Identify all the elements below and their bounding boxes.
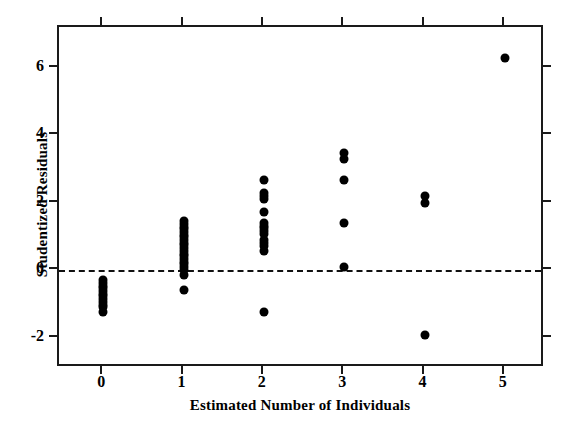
data-point [340, 218, 349, 227]
data-point [340, 262, 349, 271]
x-tick-label-5: 5 [499, 373, 507, 391]
data-point [259, 308, 268, 317]
x-tick-top-2 [261, 17, 263, 25]
data-point [420, 330, 429, 339]
x-tick-top-0 [100, 17, 102, 25]
x-tick-top-4 [422, 17, 424, 25]
y-tick-0 [49, 267, 57, 269]
x-tick-label-4: 4 [419, 373, 427, 391]
x-tick-top-1 [181, 17, 183, 25]
data-point [340, 155, 349, 164]
x-tick-label-0: 0 [97, 373, 105, 391]
y-tick-right--2 [543, 335, 551, 337]
y-tick-right-4 [543, 132, 551, 134]
y-tick-2 [49, 200, 57, 202]
data-point [179, 271, 188, 280]
x-tick-label-2: 2 [258, 373, 266, 391]
data-point [179, 286, 188, 295]
y-tick-6 [49, 65, 57, 67]
x-tick-label-1: 1 [178, 373, 186, 391]
y-tick-label-4: 4 [36, 124, 44, 142]
x-tick-label-3: 3 [338, 373, 346, 391]
data-point [420, 199, 429, 208]
y-tick-right-0 [543, 267, 551, 269]
data-point [340, 176, 349, 185]
zero-reference-line [59, 270, 541, 272]
plot-area [59, 27, 541, 364]
x-tick-top-3 [341, 17, 343, 25]
x-axis-title: Estimated Number of Individuals [57, 397, 543, 414]
data-point [259, 246, 268, 255]
y-tick-label-0: 0 [36, 259, 44, 277]
data-point [99, 307, 108, 316]
plot-frame [57, 25, 543, 366]
y-tick-label-6: 6 [36, 57, 44, 75]
y-tick-right-2 [543, 200, 551, 202]
x-tick-top-5 [502, 17, 504, 25]
y-tick-right-6 [543, 65, 551, 67]
y-tick-label-2: 2 [36, 192, 44, 210]
y-tick-label--2: -2 [31, 327, 44, 345]
data-point [500, 54, 509, 63]
y-tick-4 [49, 132, 57, 134]
scatter-plot-figure: Estimated Number of Individuals Studenti… [0, 0, 562, 436]
data-point [259, 175, 268, 184]
data-point [259, 208, 268, 217]
y-tick--2 [49, 335, 57, 337]
data-point [259, 195, 268, 204]
